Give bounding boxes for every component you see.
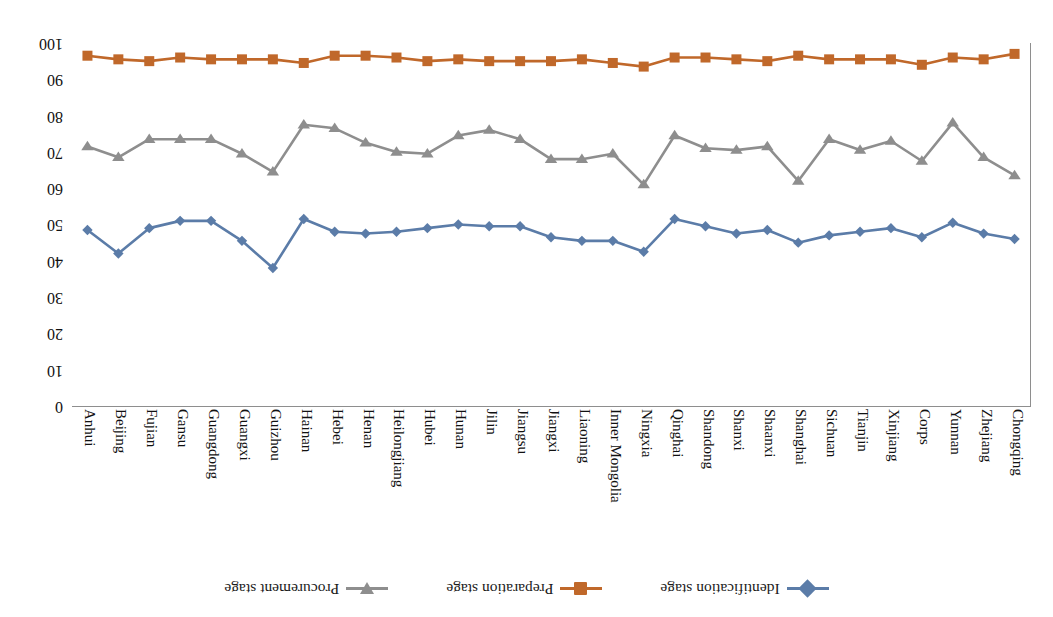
data-point-marker [453, 219, 463, 229]
legend-item-identification-stage[interactable]: Identification stage [660, 580, 828, 598]
data-point-marker [175, 53, 185, 63]
category-label: Guizhou [268, 409, 283, 461]
value-axis-tick-label: 20 [47, 326, 63, 342]
category-label: Tianjin [855, 409, 870, 452]
category-label: Jiangxi [546, 409, 561, 452]
value-axis-tick-label: 30 [47, 290, 63, 306]
data-point-marker [144, 56, 154, 66]
data-point-marker [484, 56, 494, 66]
category-label: Guangdong [206, 409, 221, 479]
data-point-marker [82, 51, 92, 61]
data-point-marker [360, 228, 370, 238]
category-label: Shanxi [731, 409, 746, 451]
data-point-marker [762, 225, 772, 235]
data-point-marker [761, 141, 773, 151]
data-point-marker [700, 221, 710, 231]
category-label: Corps [917, 409, 932, 445]
data-point-marker [361, 51, 371, 61]
data-point-marker [823, 133, 835, 143]
data-point-marker [391, 53, 401, 63]
data-point-marker [639, 62, 649, 72]
data-point-marker [391, 227, 401, 237]
value-axis-labels: 0102030405060708090100 [7, 34, 67, 407]
data-point-marker [886, 223, 896, 233]
value-axis-tick-label: 60 [47, 181, 63, 197]
value-axis-tick-label: 10 [47, 363, 63, 379]
series-canvas [72, 43, 1030, 406]
data-point-marker [484, 221, 494, 231]
data-point-marker [453, 54, 463, 64]
category-label: Shanghai [793, 409, 808, 465]
data-point-marker [885, 135, 897, 145]
series-preparation-stage [82, 49, 1019, 72]
data-point-marker [824, 230, 834, 240]
data-point-marker [670, 53, 680, 63]
data-point-marker [1010, 49, 1020, 59]
data-point-marker [515, 221, 525, 231]
series-procurement-stage [81, 117, 1020, 188]
category-label: Inner Mongolia [608, 409, 623, 503]
data-point-marker [329, 227, 339, 237]
data-point-marker [608, 58, 618, 68]
legend-label: Identification stage [660, 580, 779, 598]
legend-label: Preparation stage [446, 580, 553, 598]
data-point-marker [422, 56, 432, 66]
series-line [87, 219, 1014, 268]
data-point-marker [546, 56, 556, 66]
plot-area [72, 43, 1031, 407]
category-label: Jiangsu [515, 409, 530, 454]
category-label: Chongqing [1010, 409, 1025, 476]
data-point-marker [855, 227, 865, 237]
category-label: Xinjiang [886, 409, 901, 462]
category-label: Beijing [113, 409, 128, 453]
data-point-marker [175, 216, 185, 226]
category-label: Ningxia [639, 409, 654, 457]
data-point-marker [577, 236, 587, 246]
value-axis-tick-label: 100 [39, 36, 63, 52]
category-label: Anhui [82, 409, 97, 447]
series-identification-stage [82, 214, 1019, 273]
data-point-marker [483, 124, 495, 134]
data-point-marker [886, 54, 896, 64]
data-point-marker [577, 54, 587, 64]
legend-marker-square-icon [560, 583, 602, 596]
data-point-marker [793, 237, 803, 247]
data-point-marker [917, 60, 927, 70]
data-point-marker [268, 54, 278, 64]
data-point-marker [948, 217, 958, 227]
category-label: Shandong [701, 409, 716, 469]
value-axis-tick-label: 90 [47, 72, 63, 88]
legend-item-procurement-stage[interactable]: Procurement stage [224, 580, 388, 598]
category-label: Yunnan [948, 409, 963, 455]
category-label: Hubei [422, 409, 437, 446]
category-label: Hunan [453, 409, 468, 449]
value-axis-tick-label: 80 [47, 109, 63, 125]
data-point-marker [855, 54, 865, 64]
data-point-marker [1008, 170, 1020, 180]
category-label: Sichuan [824, 409, 839, 457]
data-point-marker [979, 54, 989, 64]
data-point-marker [298, 119, 310, 129]
category-axis-labels: ChongqingZhejiangYunnanCorpsXinjiangTian… [73, 409, 1031, 547]
data-point-marker [237, 54, 247, 64]
legend-label: Procurement stage [224, 580, 339, 598]
data-point-marker [947, 117, 959, 127]
data-point-marker [607, 148, 619, 158]
data-point-marker [1009, 234, 1019, 244]
data-point-marker [668, 130, 680, 140]
category-label: Jilin [484, 409, 499, 435]
data-point-marker [762, 56, 772, 66]
category-label: Henan [361, 409, 376, 448]
category-label: Fujian [144, 409, 159, 447]
category-label: Hebei [330, 409, 345, 445]
category-label: Gansu [175, 409, 190, 447]
data-point-marker [701, 53, 711, 63]
category-label: Heilongjiang [391, 409, 406, 487]
data-point-marker [608, 236, 618, 246]
category-label: Liaoning [577, 409, 592, 463]
data-point-marker [546, 232, 556, 242]
value-axis-tick-label: 50 [47, 218, 63, 234]
legend-item-preparation-stage[interactable]: Preparation stage [446, 580, 602, 598]
category-label: Hainan [299, 409, 314, 452]
data-point-marker [824, 54, 834, 64]
